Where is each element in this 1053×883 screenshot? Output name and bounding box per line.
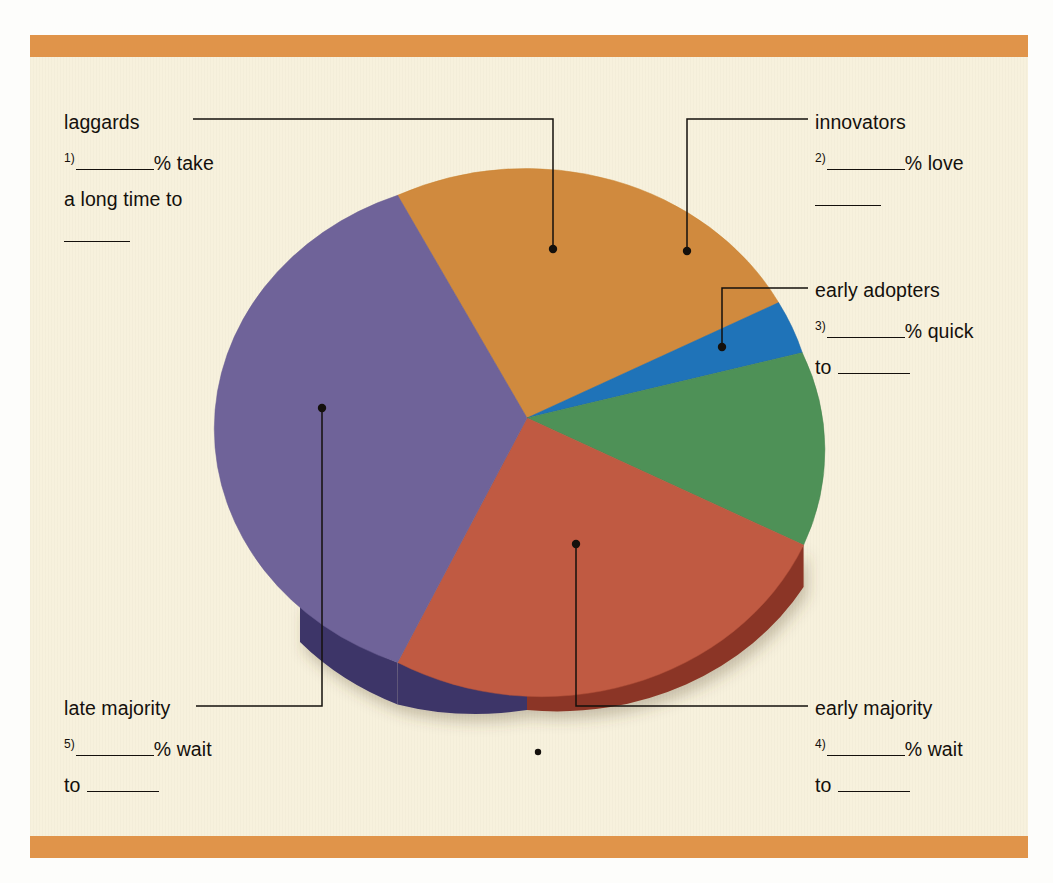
callout-innovators-text-a: % love <box>905 152 964 174</box>
callout-early-majority-line-2: to <box>815 767 963 803</box>
callout-laggards-text-a: % take <box>154 152 214 174</box>
callout-early-adopters-marker: 3) <box>815 319 826 333</box>
callout-laggards-line-2: a long time to <box>64 181 214 217</box>
callout-late-majority-blank-1[interactable] <box>76 755 154 756</box>
callout-innovators-line-2 <box>815 181 964 217</box>
callout-laggards-blank-2[interactable] <box>64 241 130 242</box>
callout-early-adopters-blank-2[interactable] <box>838 373 910 374</box>
callout-early-adopters-line-2: to <box>815 349 974 385</box>
callout-early-adopters-text-b: to <box>815 356 831 378</box>
callout-laggards-title: laggards <box>64 104 214 140</box>
callout-early-adopters-line-1: 3)% quick <box>815 308 974 349</box>
callout-early-majority-text-b: to <box>815 774 831 796</box>
callout-early-adopters-title: early adopters <box>815 272 974 308</box>
callout-innovators: innovators 2)% love <box>815 104 964 217</box>
callout-laggards-marker: 1) <box>64 151 75 165</box>
callout-early-majority-marker: 4) <box>815 737 826 751</box>
leader-dot-early-adopters <box>718 343 726 351</box>
pie-chart-figure: laggards 1)% take a long time to innovat… <box>0 0 1053 883</box>
callout-early-adopters-blank-1[interactable] <box>827 337 905 338</box>
callout-innovators-marker: 2) <box>815 151 826 165</box>
callout-early-majority-title: early majority <box>815 690 963 726</box>
callout-innovators-title: innovators <box>815 104 964 140</box>
callout-laggards: laggards 1)% take a long time to <box>64 104 214 253</box>
leader-dot-innovators <box>683 247 691 255</box>
callout-late-majority-line-1: 5)% wait <box>64 726 212 767</box>
callout-late-majority-blank-2[interactable] <box>87 791 159 792</box>
leader-dot-early-majority <box>572 540 580 548</box>
callout-late-majority-text-a: % wait <box>154 738 212 760</box>
callout-laggards-blank-1[interactable] <box>76 169 154 170</box>
callout-early-majority-blank-1[interactable] <box>827 755 905 756</box>
callout-innovators-blank-1[interactable] <box>827 169 905 170</box>
callout-innovators-line-1: 2)% love <box>815 140 964 181</box>
leader-dot-bottom-edge <box>535 749 541 755</box>
callout-late-majority: late majority 5)% wait to <box>64 690 212 803</box>
callout-late-majority-text-b: to <box>64 774 80 796</box>
leader-dot-laggards <box>549 245 557 253</box>
callout-early-majority-line-1: 4)% wait <box>815 726 963 767</box>
callout-early-majority: early majority 4)% wait to <box>815 690 963 803</box>
callout-laggards-line-1: 1)% take <box>64 140 214 181</box>
callout-early-majority-text-a: % wait <box>905 738 963 760</box>
callout-innovators-blank-2[interactable] <box>815 205 881 206</box>
callout-laggards-line-3 <box>64 217 214 253</box>
callout-late-majority-line-2: to <box>64 767 212 803</box>
callout-late-majority-title: late majority <box>64 690 212 726</box>
callout-late-majority-marker: 5) <box>64 737 75 751</box>
callout-early-adopters: early adopters 3)% quick to <box>815 272 974 385</box>
leader-dot-late-majority <box>318 404 326 412</box>
callout-early-majority-blank-2[interactable] <box>838 791 910 792</box>
callout-early-adopters-text-a: % quick <box>905 320 974 342</box>
